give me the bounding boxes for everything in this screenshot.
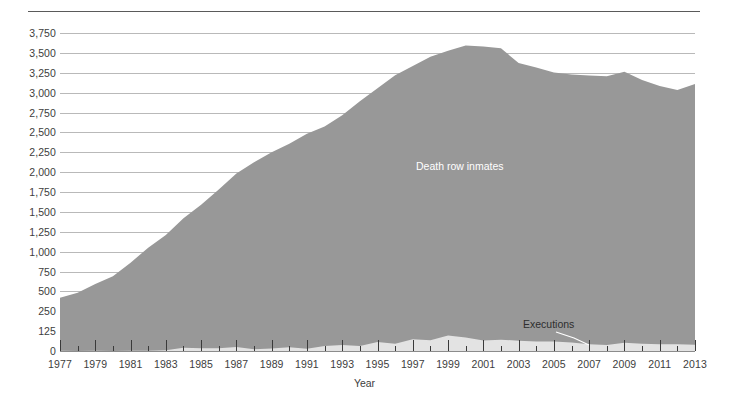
y-tick-label-1250: 1,250 [4, 227, 56, 238]
x-tick-2002 [501, 346, 502, 351]
chart-root: 01252505007501,0001,2501,5001,7502,0002,… [0, 0, 729, 400]
gridline-0 [60, 351, 695, 352]
x-tick-1995 [378, 340, 379, 351]
x-tick-label-1979: 1979 [83, 358, 107, 370]
x-tick-label-1983: 1983 [154, 358, 178, 370]
x-tick-label-1989: 1989 [260, 358, 284, 370]
x-tick-2009 [624, 340, 625, 351]
x-tick-1986 [219, 346, 220, 351]
series-areas [60, 33, 695, 351]
x-tick-2003 [519, 340, 520, 351]
y-tick-label-1500: 1,500 [4, 207, 56, 218]
x-tick-label-1981: 1981 [119, 358, 143, 370]
x-tick-label-2011: 2011 [648, 358, 671, 370]
plot-area [60, 33, 695, 351]
x-tick-2000 [466, 346, 467, 351]
x-tick-2006 [572, 346, 573, 351]
x-tick-1980 [113, 346, 114, 351]
y-tick-label-2000: 2,000 [4, 167, 56, 178]
y-tick-label-500: 500 [4, 286, 56, 297]
x-tick-1996 [395, 346, 396, 351]
x-tick-1977 [60, 340, 61, 351]
x-tick-1987 [236, 340, 237, 351]
series-label-death-row-inmates: Death row inmates [416, 160, 504, 172]
x-tick-1997 [413, 340, 414, 351]
x-tick-1999 [448, 340, 449, 351]
x-tick-1990 [289, 346, 290, 351]
x-tick-label-2005: 2005 [542, 358, 566, 370]
x-tick-1979 [95, 340, 96, 351]
x-tick-1981 [131, 340, 132, 351]
x-tick-label-1977: 1977 [48, 358, 72, 370]
y-tick-label-2750: 2,750 [4, 107, 56, 118]
x-tick-label-2013: 2013 [683, 358, 707, 370]
x-tick-label-1997: 1997 [401, 358, 425, 370]
y-tick-label-1000: 1,000 [4, 246, 56, 257]
x-axis-labels: 1977197919811983198519871989199119931995… [60, 358, 695, 374]
x-tick-label-1991: 1991 [295, 358, 319, 370]
x-tick-label-1999: 1999 [436, 358, 460, 370]
x-tick-1992 [325, 346, 326, 351]
x-tick-1984 [183, 346, 184, 351]
x-tick-1993 [342, 340, 343, 351]
y-tick-label-3250: 3,250 [4, 68, 56, 79]
x-tick-1991 [307, 340, 308, 351]
x-tick-label-1985: 1985 [189, 358, 213, 370]
x-tick-label-1993: 1993 [330, 358, 354, 370]
x-tick-1988 [254, 346, 255, 351]
x-tick-label-2007: 2007 [577, 358, 601, 370]
x-tick-label-2009: 2009 [613, 358, 637, 370]
x-tick-label-2001: 2001 [471, 358, 495, 370]
x-tick-1978 [78, 346, 79, 351]
x-tick-2001 [483, 340, 484, 351]
area-death-row-inmates [60, 45, 695, 351]
y-tick-label-3750: 3,750 [4, 28, 56, 39]
x-tick-label-2003: 2003 [507, 358, 531, 370]
y-tick-label-250: 250 [4, 306, 56, 317]
x-tick-2011 [660, 340, 661, 351]
y-tick-label-2250: 2,250 [4, 147, 56, 158]
top-rule [28, 11, 700, 12]
x-tick-label-1987: 1987 [224, 358, 248, 370]
x-tick-2004 [536, 346, 537, 351]
x-tick-2010 [642, 346, 643, 351]
x-tick-1985 [201, 340, 202, 351]
x-tick-2013 [695, 340, 696, 351]
x-tick-1989 [272, 340, 273, 351]
y-tick-label-1750: 1,750 [4, 187, 56, 198]
x-axis-title: Year [0, 377, 729, 389]
y-tick-label-0: 0 [4, 346, 56, 357]
x-tick-2012 [677, 346, 678, 351]
y-tick-label-3500: 3,500 [4, 48, 56, 59]
y-tick-label-125: 125 [4, 326, 56, 337]
x-tick-label-1995: 1995 [366, 358, 390, 370]
series-label-executions: Executions [523, 318, 574, 330]
x-tick-1994 [360, 346, 361, 351]
y-tick-label-2500: 2,500 [4, 127, 56, 138]
y-tick-label-3000: 3,000 [4, 87, 56, 98]
x-tick-2005 [554, 340, 555, 351]
x-tick-2007 [589, 340, 590, 351]
x-tick-2008 [607, 346, 608, 351]
x-tick-1998 [430, 346, 431, 351]
y-axis-labels: 01252505007501,0001,2501,5001,7502,0002,… [0, 33, 56, 351]
x-tick-1982 [148, 346, 149, 351]
y-tick-label-750: 750 [4, 266, 56, 277]
x-tick-1983 [166, 340, 167, 351]
